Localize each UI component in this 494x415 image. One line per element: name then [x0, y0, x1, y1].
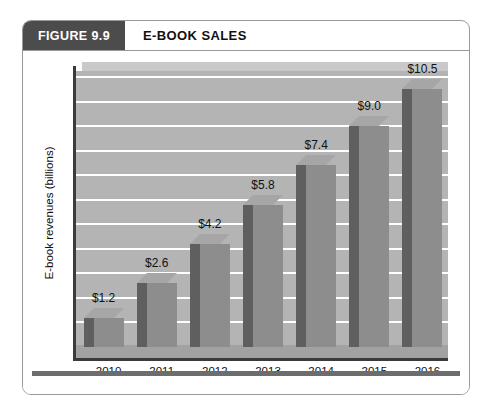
bar-front-face	[412, 89, 442, 347]
bar-side-face	[402, 89, 412, 347]
bar-top-face	[137, 273, 177, 283]
y-axis-line	[73, 66, 76, 360]
bar-value-label: $2.6	[122, 256, 192, 270]
bar-front-face	[200, 244, 230, 347]
bar-value-label: $10.5	[387, 62, 457, 76]
bar-front-face	[147, 283, 177, 347]
bottom-rule	[32, 371, 460, 376]
figure-card: FIGURE 9.9 E-BOOK SALES E-book revenues …	[22, 20, 470, 395]
gridline	[76, 125, 448, 127]
y-axis-tick	[448, 174, 454, 176]
gridline	[76, 174, 448, 176]
y-axis-tick	[448, 199, 454, 201]
bar	[94, 318, 124, 347]
bar-value-label: $5.8	[228, 178, 298, 192]
bar-side-face	[84, 318, 94, 347]
bar	[306, 165, 336, 347]
bar-front-face	[359, 126, 389, 347]
bar-top-face	[296, 155, 336, 165]
bar-value-label: $4.2	[175, 217, 245, 231]
plot-floor	[76, 345, 448, 359]
figure-title: E-BOOK SALES	[125, 21, 469, 50]
bar	[200, 244, 230, 347]
bar	[412, 89, 442, 347]
y-axis-tick	[448, 101, 454, 103]
gridline	[76, 76, 448, 78]
bar-top-face	[190, 234, 230, 244]
y-axis-tick	[448, 248, 454, 250]
bar-value-label: $1.2	[69, 291, 139, 305]
bar	[253, 205, 283, 347]
plot-wrapper: $0$1$2$3$4$5$6$7$8$9$10$11 2010201120122…	[76, 62, 448, 359]
y-axis-tick	[448, 223, 454, 225]
bar	[147, 283, 177, 347]
bar-top-face	[402, 79, 442, 89]
bar-value-label: $7.4	[281, 138, 351, 152]
figure-number-label: FIGURE 9.9	[23, 21, 125, 50]
bar-front-face	[306, 165, 336, 347]
gridline	[76, 150, 448, 152]
y-axis-tick	[448, 150, 454, 152]
bar-chart: E-book revenues (billions) $0$1$2$3$4$5$…	[23, 52, 470, 395]
bar	[359, 126, 389, 347]
y-axis-tick	[448, 125, 454, 127]
y-axis-tick	[448, 297, 454, 299]
bar-side-face	[349, 126, 359, 347]
y-axis-tick	[448, 321, 454, 323]
figure-body: E-book revenues (billions) $0$1$2$3$4$5$…	[23, 52, 469, 394]
y-axis-title: E-book revenues (billions)	[43, 93, 55, 333]
figure-header: FIGURE 9.9 E-BOOK SALES	[23, 21, 469, 51]
bar-side-face	[296, 165, 306, 347]
bar-value-label: $9.0	[334, 99, 404, 113]
x-axis-line	[73, 358, 448, 361]
bar-top-face	[243, 195, 283, 205]
plot-area	[76, 71, 448, 359]
y-axis-tick	[448, 272, 454, 274]
y-axis-tick	[448, 76, 454, 78]
bar-front-face	[94, 318, 124, 347]
bar-front-face	[253, 205, 283, 347]
bar-top-face	[84, 308, 124, 318]
